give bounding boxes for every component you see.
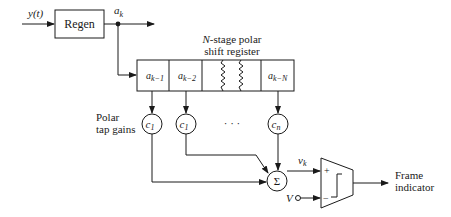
- tap2-to-sum: [186, 134, 268, 173]
- summer-symbol: Σ: [274, 175, 280, 187]
- tap-gains-label-line1: Polar: [96, 111, 120, 123]
- output-label-line1: Frame: [395, 169, 423, 181]
- threshold-label: V: [286, 192, 294, 204]
- input-label: y(t): [27, 7, 44, 20]
- tap-gains-label-line2: tap gains: [96, 123, 135, 135]
- vk-label: vk: [298, 154, 307, 168]
- threshold-terminal: [296, 196, 301, 201]
- comparator-plus: +: [324, 165, 330, 176]
- register-title-line2: shift register: [204, 45, 260, 57]
- register-title-line1: N-stage polar: [202, 33, 262, 45]
- ak-label: ak: [114, 4, 124, 19]
- regen-label: Regen: [64, 17, 95, 31]
- register-feed-arrow: [118, 24, 136, 75]
- tap1-to-sum: [152, 134, 266, 182]
- output-label-line2: indicator: [395, 181, 434, 193]
- ellipsis: · · ·: [224, 117, 241, 129]
- frame-sync-diagram: y(t) Regen ak N-stage polar shift regist…: [0, 0, 451, 217]
- comparator-minus: −: [323, 193, 329, 204]
